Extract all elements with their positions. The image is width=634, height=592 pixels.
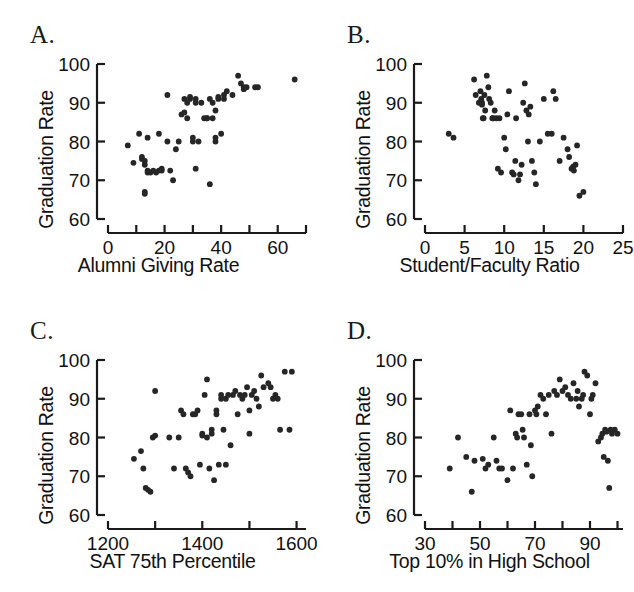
scatter-point bbox=[125, 142, 131, 148]
y-tick-label: 60 bbox=[386, 209, 407, 230]
scatter-point bbox=[216, 462, 222, 468]
scatter-point bbox=[541, 96, 547, 102]
y-tick-label: 90 bbox=[69, 93, 90, 114]
scatter-point bbox=[209, 427, 215, 433]
scatter-point bbox=[520, 427, 526, 433]
scatter-point bbox=[518, 411, 524, 417]
scatter-point bbox=[472, 458, 478, 464]
scatter-point bbox=[156, 131, 162, 137]
scatter-point bbox=[481, 115, 487, 121]
scatter-point bbox=[170, 177, 176, 183]
scatter-point bbox=[142, 162, 148, 168]
scatter-point bbox=[562, 384, 568, 390]
scatter-point bbox=[223, 462, 229, 468]
scatter-point bbox=[181, 110, 187, 116]
scatter-point bbox=[206, 466, 212, 472]
scatter-point bbox=[235, 73, 241, 79]
scatter-point bbox=[531, 170, 537, 176]
scatter-point bbox=[549, 131, 555, 137]
scatter-point bbox=[484, 73, 490, 79]
y-tick-label: 70 bbox=[386, 170, 407, 191]
scatter-point bbox=[256, 404, 262, 410]
scatter-point bbox=[557, 376, 563, 382]
panel-a-plot: 607080901000204060 bbox=[0, 0, 317, 296]
scatter-point bbox=[511, 172, 517, 178]
scatter-point bbox=[580, 392, 586, 398]
scatter-point bbox=[197, 462, 203, 468]
figure-panel-grid: A. Graduation Rate 607080901000204060 Al… bbox=[0, 0, 634, 592]
scatter-point bbox=[615, 431, 621, 437]
scatter-point bbox=[488, 100, 494, 106]
scatter-point bbox=[565, 146, 571, 152]
scatter-point bbox=[494, 458, 500, 464]
scatter-point bbox=[498, 170, 504, 176]
scatter-point bbox=[213, 139, 219, 145]
scatter-point bbox=[455, 435, 461, 441]
y-tick-label: 70 bbox=[69, 466, 90, 487]
y-tick-label: 80 bbox=[386, 428, 407, 449]
panel-c-x-axis-label: SAT 75th Percentile bbox=[0, 550, 317, 573]
scatter-point bbox=[210, 115, 216, 121]
scatter-point bbox=[491, 435, 497, 441]
panel-c-plot: 60708090100120014001600 bbox=[0, 296, 317, 592]
scatter-point bbox=[215, 94, 221, 100]
scatter-point bbox=[242, 392, 248, 398]
y-tick-label: 90 bbox=[386, 389, 407, 410]
panel-d-top10: D. Graduation Rate 6070809010030507090 T… bbox=[317, 296, 634, 592]
y-tick-label: 70 bbox=[69, 170, 90, 191]
scatter-point bbox=[473, 92, 479, 98]
scatter-point bbox=[218, 131, 224, 137]
scatter-point bbox=[568, 396, 574, 402]
y-tick-label: 100 bbox=[375, 54, 407, 75]
scatter-point bbox=[543, 411, 549, 417]
scatter-point bbox=[159, 168, 165, 174]
scatter-point bbox=[606, 485, 612, 491]
scatter-point bbox=[605, 458, 611, 464]
scatter-point bbox=[193, 100, 199, 106]
scatter-point bbox=[196, 139, 202, 145]
scatter-point bbox=[228, 442, 234, 448]
scatter-point bbox=[571, 168, 577, 174]
scatter-point bbox=[258, 373, 264, 379]
scatter-point bbox=[522, 80, 528, 86]
scatter-point bbox=[261, 384, 267, 390]
scatter-point bbox=[221, 427, 227, 433]
scatter-point bbox=[527, 411, 533, 417]
scatter-point bbox=[166, 435, 172, 441]
scatter-point bbox=[247, 431, 253, 437]
scatter-point bbox=[165, 139, 171, 145]
scatter-point bbox=[214, 411, 220, 417]
scatter-point bbox=[255, 84, 261, 90]
scatter-point bbox=[529, 158, 535, 164]
scatter-point bbox=[566, 154, 572, 160]
scatter-point bbox=[232, 388, 238, 394]
scatter-point bbox=[503, 146, 509, 152]
scatter-point bbox=[554, 392, 560, 398]
scatter-point bbox=[184, 115, 190, 121]
scatter-point bbox=[499, 466, 505, 472]
y-tick-label: 80 bbox=[69, 428, 90, 449]
scatter-point bbox=[195, 407, 201, 413]
y-tick-label: 60 bbox=[69, 209, 90, 230]
scatter-points bbox=[447, 369, 621, 495]
scatter-point bbox=[131, 456, 137, 462]
y-tick-label: 80 bbox=[69, 132, 90, 153]
scatter-point bbox=[207, 181, 213, 187]
scatter-point bbox=[152, 388, 158, 394]
scatter-point bbox=[289, 369, 295, 375]
scatter-point bbox=[193, 166, 199, 172]
scatter-point bbox=[204, 435, 210, 441]
scatter-point bbox=[480, 456, 486, 462]
scatter-point bbox=[251, 388, 257, 394]
scatter-point bbox=[224, 88, 230, 94]
scatter-point bbox=[528, 442, 534, 448]
scatter-point bbox=[525, 139, 531, 145]
y-tick-label: 90 bbox=[69, 389, 90, 410]
scatter-point bbox=[247, 407, 253, 413]
scatter-point bbox=[519, 162, 525, 168]
scatter-point bbox=[469, 489, 475, 495]
scatter-point bbox=[275, 396, 281, 402]
scatter-point bbox=[561, 135, 567, 141]
scatter-point bbox=[573, 162, 579, 168]
scatter-point bbox=[520, 100, 526, 106]
